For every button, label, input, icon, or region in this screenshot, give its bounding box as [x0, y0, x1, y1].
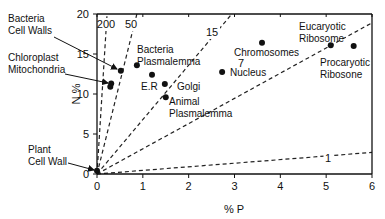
x-tick-label: 1: [140, 180, 146, 192]
point-e-r: [149, 72, 155, 78]
x-tick-label: 3: [231, 180, 237, 192]
label-line: Bacteria: [8, 13, 45, 24]
label-nucleus: Nucleus: [230, 67, 266, 78]
label-line: Nucleus: [230, 67, 266, 78]
label-line: Chromosomes: [234, 47, 299, 58]
point-nucleus: [219, 69, 225, 75]
label-golgi: Golgi: [177, 81, 200, 92]
label-bacteria-plasmalemma: BacteriaPlasmalemma: [137, 44, 201, 67]
point-plant-cell-wall: [94, 168, 100, 174]
label-line: Cell Walls: [8, 25, 52, 36]
np-scatter-chart: 200501571 012345605101520 BacteriaCell W…: [0, 0, 385, 219]
label-line: Procaryotic: [320, 57, 370, 68]
label-line: Plasmalemma: [137, 56, 201, 67]
label-eucaryotic-ribosome: EucaryoticRibosome: [299, 21, 346, 44]
x-tick-label: 5: [323, 180, 329, 192]
label-line: Mitochondria: [8, 64, 66, 75]
point-chromosomes: [259, 40, 265, 46]
ratio-line-label-15: 15: [206, 26, 218, 38]
point-labels: BacteriaCell WallsChloroplastMitochondri…: [8, 13, 370, 170]
ratio-line-label-200: 200: [97, 18, 115, 30]
label-plant-cell-wall: PlantCell Wall: [28, 144, 94, 170]
label-animal-plasmalemma: AnimalPlasmalemma: [169, 96, 233, 119]
point-animal-plasmalemma: [163, 94, 169, 100]
label-line: Eucaryotic: [299, 21, 346, 32]
y-tick-label: 0: [83, 168, 89, 180]
x-tick-label: 0: [94, 180, 100, 192]
x-axis-label: % P: [224, 203, 244, 215]
label-line: Bacteria: [137, 44, 174, 55]
point-bacteria-cell-walls: [118, 68, 124, 74]
label-line: Chloroplast: [8, 52, 59, 63]
label-chromosomes: Chromosomes: [234, 47, 299, 58]
arrow: [65, 74, 108, 83]
label-line: Ribosone: [320, 69, 363, 80]
x-tick-label: 2: [186, 180, 192, 192]
ratio-line-label-1: 1: [325, 152, 331, 164]
label-line: Ribosome: [299, 33, 344, 44]
label-line: E.R: [141, 81, 158, 92]
y-axis-label: % N: [70, 84, 82, 105]
ratio-line-label-50: 50: [125, 18, 137, 30]
label-e-r: E.R: [141, 81, 158, 92]
label-line: Plasmalemma: [169, 108, 233, 119]
label-line: Plant: [28, 144, 51, 155]
ratio-line-200: [97, 14, 107, 174]
label-procaryotic-ribosone: ProcaryoticRibosone: [320, 57, 370, 80]
x-tick-label: 4: [277, 180, 283, 192]
label-line: Cell Wall: [28, 156, 67, 167]
y-tick-label: 5: [83, 128, 89, 140]
point-procaryotic-ribosone: [351, 43, 357, 49]
y-tick-label: 20: [77, 8, 89, 20]
point-golgi: [162, 81, 168, 87]
arrow: [68, 163, 94, 170]
x-tick-label: 6: [369, 180, 375, 192]
data-points: [94, 40, 357, 174]
label-line: Animal: [169, 96, 200, 107]
point-mitochondria: [107, 84, 113, 90]
label-line: Golgi: [177, 81, 200, 92]
